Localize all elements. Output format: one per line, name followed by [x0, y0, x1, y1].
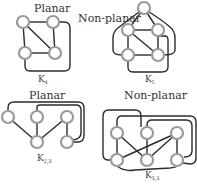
panel-title: Non-planar: [124, 89, 188, 102]
panel-k23: PlanarK2,3: [2, 89, 84, 164]
vertex-node: [47, 16, 59, 28]
graph-label-subscript: 4: [45, 79, 48, 85]
curved-edge: [8, 102, 84, 142]
panel-title: Non-planar: [78, 12, 142, 25]
vertex-node: [31, 111, 43, 123]
vertex-node: [141, 127, 153, 139]
panels-root: PlanarK4Non-planarK5PlanarK2,3Non-planar…: [2, 2, 196, 181]
vertex-node: [122, 49, 134, 61]
vertex-node: [122, 24, 134, 36]
vertex-node: [111, 127, 123, 139]
vertex-node: [152, 49, 164, 61]
vertex-node: [19, 47, 31, 59]
graph-label-subscript: 3,3: [152, 175, 160, 181]
vertex-node: [61, 136, 73, 148]
vertex-node: [152, 24, 164, 36]
curved-edge: [147, 120, 192, 157]
vertex-node: [17, 16, 29, 28]
vertex-node: [2, 111, 14, 123]
graph-label-subscript: 5: [152, 79, 155, 85]
curved-edge: [37, 105, 81, 140]
vertex-node: [111, 154, 123, 166]
panel-k5: Non-planarK5: [78, 2, 175, 85]
vertex-node: [49, 47, 61, 59]
vertex-node: [171, 127, 183, 139]
panel-title: Planar: [29, 89, 66, 102]
graph-label-subscript: 2,3: [44, 158, 52, 164]
panel-k33: Non-planarK3,3: [103, 89, 196, 181]
panel-title: Planar: [34, 2, 71, 15]
vertex-node: [61, 111, 73, 123]
vertex-node: [171, 154, 183, 166]
vertex-node: [31, 136, 43, 148]
panel-k4: PlanarK4: [17, 2, 71, 85]
vertex-node: [141, 154, 153, 166]
graph-diagram: PlanarK4Non-planarK5PlanarK2,3Non-planar…: [0, 0, 197, 185]
